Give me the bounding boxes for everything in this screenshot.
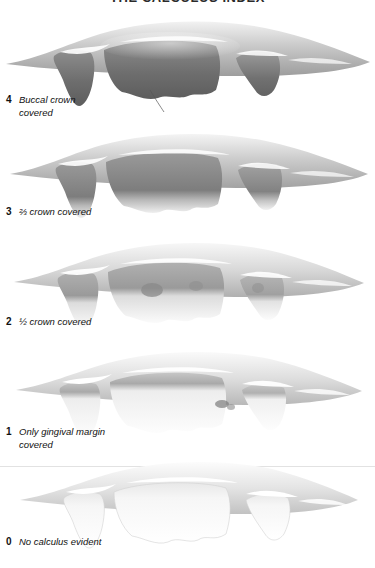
calculus-index-figure: THE CALCULUS INDEX [0, 0, 375, 568]
score-2: 2 [6, 316, 19, 329]
description-1-line1: Only gingival margin [19, 426, 105, 437]
description-3: ⅔ crown covered [19, 206, 91, 219]
score-0: 0 [6, 536, 19, 549]
figure-title: THE CALCULUS INDEX [0, 0, 375, 5]
description-0: No calculus evident [19, 536, 101, 549]
score-3: 3 [6, 206, 19, 219]
caption-grade-3: 3 ⅔ crown covered [6, 206, 91, 219]
caption-grade-2: 2 ½ crown covered [6, 316, 91, 329]
description-4-line2: covered [19, 107, 53, 118]
description-4: Buccal crown covered [19, 94, 76, 119]
caption-grade-4: 4 Buccal crown covered [6, 94, 76, 119]
score-4: 4 [6, 94, 19, 107]
description-4-line1: Buccal crown [19, 94, 76, 105]
caption-grade-0: 0 No calculus evident [6, 536, 101, 549]
description-2: ½ crown covered [19, 316, 91, 329]
score-1: 1 [6, 426, 19, 439]
